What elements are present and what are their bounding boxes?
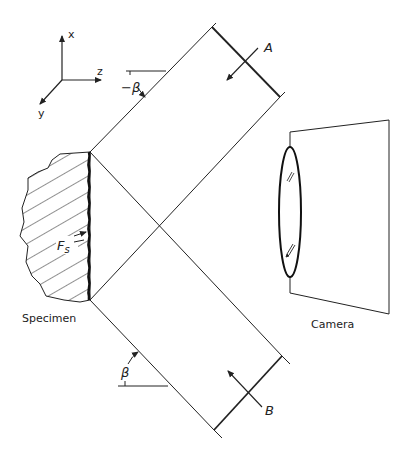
beam-a-lower-edge <box>90 97 280 300</box>
coordinate-axes: x z y <box>38 28 103 120</box>
beam-b: B β <box>90 152 290 438</box>
beam-b-tick-top <box>282 356 290 364</box>
beam-b-direction-arrow <box>228 371 262 407</box>
beam-b-lower-edge <box>90 300 214 430</box>
specimen-label: Specimen <box>22 312 76 325</box>
beam-a-tick-top <box>212 23 216 27</box>
beam-a-direction-arrow <box>227 48 258 80</box>
beam-a-upper-edge <box>90 27 212 152</box>
beam-b-wavefront <box>214 356 282 430</box>
beam-b-upper-edge <box>90 152 282 356</box>
beam-b-tick-bottom <box>214 430 222 438</box>
beam-b-angle-arc <box>128 352 138 364</box>
z-axis-label: z <box>97 65 103 78</box>
beam-b-angle-label: β <box>120 365 129 380</box>
specimen-body <box>20 152 90 302</box>
beam-a-tick-bottom <box>280 92 285 97</box>
y-axis <box>40 80 62 104</box>
optical-setup-diagram: x z y A −β B β Fs <box>0 0 411 462</box>
x-axis-label: x <box>68 28 75 41</box>
beam-a-angle-label: −β <box>121 80 140 95</box>
beam-b-label: B <box>265 403 274 418</box>
beam-a-label: A <box>263 40 273 55</box>
camera-body <box>290 120 389 314</box>
specimen: Fs Specimen <box>20 152 90 325</box>
camera-label: Camera <box>311 318 354 331</box>
camera: Camera <box>279 120 389 331</box>
specimen-surface <box>88 152 89 300</box>
beam-a-wavefront <box>212 27 280 97</box>
camera-lens <box>279 147 301 277</box>
y-axis-label: y <box>38 107 45 120</box>
beam-a: A −β <box>90 23 285 300</box>
